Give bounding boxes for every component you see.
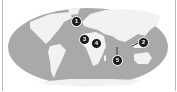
- map-marker-5[interactable]: 5: [112, 55, 123, 66]
- map-marker-4[interactable]: 4: [91, 38, 102, 49]
- map-marker-1[interactable]: 1: [71, 16, 82, 27]
- madagascar: [104, 55, 106, 61]
- world-map: [0, 0, 177, 92]
- map-marker-2[interactable]: 2: [138, 37, 149, 48]
- map-marker-3[interactable]: 3: [79, 34, 90, 45]
